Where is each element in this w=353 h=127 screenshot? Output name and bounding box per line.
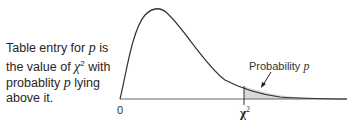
probability-label: Probability p: [249, 59, 309, 73]
pointer-arrow: [263, 72, 271, 85]
arrowhead-icon: [261, 82, 266, 88]
critical-value-label: χ2: [239, 105, 250, 120]
origin-label: 0: [117, 104, 123, 116]
chi-square-density-diagram: 0 χ2 Probability p: [0, 0, 353, 127]
density-curve: [120, 9, 347, 99]
